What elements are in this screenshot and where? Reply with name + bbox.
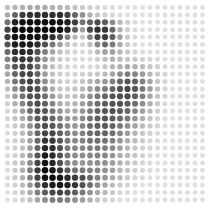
dot-cell — [140, 116, 145, 121]
dot-cell — [19, 12, 25, 18]
dot-cell — [87, 57, 92, 62]
dot-cell — [155, 116, 160, 121]
dot-cell — [27, 190, 33, 196]
dot-cell — [147, 131, 152, 136]
dot-cell — [200, 160, 205, 165]
dot-cell — [87, 123, 93, 129]
dot-cell — [200, 197, 205, 202]
dot-cell — [34, 26, 41, 33]
dot-cell — [12, 183, 17, 188]
dot-cell — [34, 108, 40, 114]
dot-cell — [140, 131, 145, 136]
dot-cell — [200, 5, 205, 10]
dot-cell — [155, 49, 160, 54]
dot-cell — [102, 160, 108, 166]
dot-cell — [80, 167, 86, 173]
dot-cell — [147, 86, 153, 92]
dot-cell — [35, 190, 41, 196]
dot-cell — [50, 86, 56, 92]
dot-cell — [125, 5, 130, 10]
dot-cell — [50, 93, 56, 99]
dot-cell — [27, 130, 33, 136]
dot-cell — [185, 20, 190, 25]
dot-cell — [65, 160, 71, 166]
dot-cell — [94, 123, 100, 129]
dot-cell — [65, 79, 70, 84]
dot-cell — [133, 197, 138, 202]
dot-cell — [12, 123, 17, 128]
dot-cell — [200, 109, 205, 114]
dot-cell — [42, 160, 49, 167]
dot-cell — [12, 190, 17, 195]
dot-cell — [12, 94, 18, 100]
dot-cell — [162, 94, 167, 99]
dot-cell — [155, 183, 160, 188]
dot-cell — [80, 160, 86, 166]
dot-cell — [80, 153, 86, 159]
dot-cell — [185, 27, 190, 32]
dot-cell — [110, 138, 116, 144]
dot-cell — [5, 5, 10, 10]
dot-cell — [5, 190, 10, 195]
dot-cell — [34, 19, 41, 26]
dot-cell — [80, 145, 86, 151]
dot-cell — [185, 5, 190, 10]
dot-cell — [193, 175, 198, 180]
dot-cell — [34, 34, 41, 41]
dot-cell — [110, 42, 116, 48]
dot-cell — [57, 79, 62, 84]
dot-cell — [87, 130, 93, 136]
dot-cell — [80, 94, 86, 100]
dot-cell — [27, 93, 33, 99]
dot-cell — [50, 57, 55, 62]
dot-cell — [72, 27, 78, 33]
dot-cell — [125, 34, 130, 39]
dot-cell — [200, 168, 205, 173]
dot-cell — [5, 56, 11, 62]
dot-cell — [155, 86, 160, 91]
dot-cell — [125, 183, 130, 188]
dot-cell — [57, 94, 62, 99]
dot-cell — [170, 94, 175, 99]
dot-cell — [95, 79, 101, 85]
dot-cell — [140, 12, 145, 17]
dot-cell — [170, 86, 175, 91]
dot-cell — [102, 79, 108, 85]
dot-cell — [27, 78, 33, 84]
dot-cell — [110, 49, 116, 55]
dot-cell — [132, 108, 138, 114]
dot-cell — [118, 5, 123, 10]
dot-cell — [155, 42, 160, 47]
dot-cell — [125, 145, 130, 150]
dot-cell — [72, 182, 78, 188]
dot-cell — [50, 101, 56, 107]
dot-cell — [140, 175, 145, 180]
dot-cell — [200, 35, 205, 40]
dot-cell — [64, 175, 70, 181]
dot-cell — [27, 71, 33, 77]
dot-cell — [125, 175, 130, 180]
dot-cell — [72, 12, 78, 18]
dot-cell — [155, 20, 160, 25]
dot-cell — [5, 168, 10, 173]
dot-cell — [170, 190, 175, 195]
dot-cell — [178, 12, 183, 17]
dot-cell — [125, 42, 130, 47]
dot-cell — [20, 93, 26, 99]
dot-cell — [170, 27, 175, 32]
dot-cell — [4, 27, 10, 33]
dot-cell — [147, 71, 152, 76]
dot-cell — [110, 71, 116, 77]
dot-cell — [19, 86, 25, 92]
dot-cell — [72, 5, 77, 10]
dot-cell — [185, 168, 190, 173]
dot-cell — [124, 101, 130, 107]
dot-cell — [50, 108, 56, 114]
dot-cell — [20, 145, 25, 150]
dot-cell — [87, 160, 93, 166]
dot-cell — [12, 197, 17, 202]
dot-cell — [162, 109, 167, 114]
dot-cell — [87, 197, 92, 202]
dot-cell — [12, 12, 18, 18]
dot-cell — [140, 168, 145, 173]
